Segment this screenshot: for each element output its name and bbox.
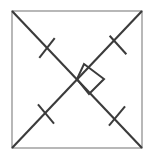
geometry-figure-svg	[0, 0, 152, 158]
geometry-figure-container	[0, 0, 152, 158]
